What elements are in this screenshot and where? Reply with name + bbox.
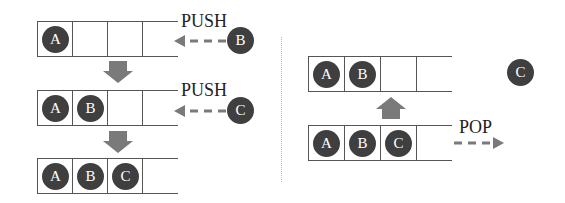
element-ball: A — [313, 130, 340, 157]
dashed-left-arrow-icon — [172, 104, 228, 118]
stack-cell — [72, 22, 107, 56]
push-label: PUSH — [181, 81, 227, 99]
element-ball: B — [349, 61, 376, 88]
stack-cell: B — [72, 91, 107, 125]
stack-cell: B — [344, 126, 379, 160]
element-ball: C — [112, 163, 139, 190]
incoming-ball: C — [227, 97, 254, 124]
stack-cell: A — [37, 91, 72, 125]
stack-cell: A — [308, 126, 343, 160]
stack-cell — [107, 22, 142, 56]
up-arrow-icon — [376, 97, 406, 119]
element-ball: B — [349, 130, 376, 157]
stack-step-3: A B C — [37, 158, 178, 194]
stack-cell — [107, 91, 142, 125]
stack-after-pop: A B — [308, 56, 452, 92]
pop-label: POP — [459, 118, 492, 136]
section-divider — [281, 37, 282, 182]
stack-cell — [380, 57, 415, 91]
down-arrow-icon — [103, 61, 133, 83]
dashed-right-arrow-icon — [452, 136, 506, 150]
stack-cell: C — [380, 126, 415, 160]
stack-cell — [142, 159, 177, 193]
incoming-ball: B — [227, 27, 254, 54]
stack-cell: A — [308, 57, 343, 91]
stack-before-pop: A B C — [308, 125, 452, 161]
stack-cell — [416, 57, 451, 91]
element-ball: A — [42, 163, 69, 190]
element-ball: A — [313, 61, 340, 88]
stack-cell: B — [344, 57, 379, 91]
stack-cell — [416, 126, 451, 160]
stack-cell: B — [72, 159, 107, 193]
stack-cell: C — [107, 159, 142, 193]
stack-cell: A — [37, 159, 72, 193]
element-ball: B — [77, 95, 104, 122]
element-ball: A — [42, 95, 69, 122]
dashed-left-arrow-icon — [172, 34, 228, 48]
popped-ball: C — [507, 59, 534, 86]
stack-step-2: A B — [37, 90, 178, 126]
push-label: PUSH — [181, 12, 227, 30]
stack-step-1: A — [37, 21, 178, 57]
element-ball: C — [385, 130, 412, 157]
stack-cell: A — [37, 22, 72, 56]
element-ball: B — [77, 163, 104, 190]
down-arrow-icon — [103, 131, 133, 153]
element-ball: A — [42, 26, 69, 53]
